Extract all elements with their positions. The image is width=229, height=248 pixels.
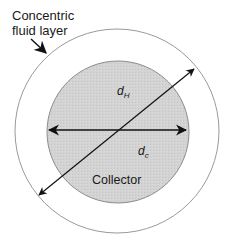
dh-label-subscript: H: [124, 91, 130, 100]
diagram-svg: Concentric fluid layer dH dc Collector: [0, 0, 229, 248]
collector-label: Collector: [92, 173, 141, 187]
fluid-layer-label-line1: Concentric: [12, 8, 75, 23]
diagram-canvas: Concentric fluid layer dH dc Collector: [0, 0, 229, 248]
fluid-layer-label-line2: fluid layer: [12, 23, 68, 38]
dc-label-subscript: c: [145, 151, 149, 160]
fluid-layer-pointer-arrow: [31, 39, 46, 53]
